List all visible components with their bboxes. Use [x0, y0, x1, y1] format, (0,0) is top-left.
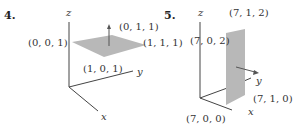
point-label: (0, 1, 1)	[119, 21, 159, 32]
x-label: x	[101, 111, 107, 122]
y-label: y	[136, 66, 143, 77]
point-label: (1, 0, 1)	[83, 63, 123, 74]
y-axis	[200, 87, 230, 98]
figure-5: 5. z y x (7, 1, 2) (7, 0, 2) (7, 1, 0) (…	[164, 7, 293, 124]
z-label: z	[65, 7, 72, 18]
figure-5-number: 5.	[164, 9, 175, 22]
point-label: (7, 0, 2)	[190, 35, 230, 46]
figure-4: 4. z y x (0, 0, 1) (0, 1, 1) (1, 1, 1) (…	[4, 7, 183, 122]
y-label: y	[255, 75, 262, 86]
point-label: (0, 0, 1)	[28, 37, 68, 48]
point-label: (7, 1, 0)	[253, 93, 293, 104]
z-label: z	[197, 7, 204, 18]
point-label: (1, 1, 1)	[143, 37, 183, 48]
x-label: x	[248, 106, 254, 117]
figure-canvas: 4. z y x (0, 0, 1) (0, 1, 1) (1, 1, 1) (…	[0, 0, 297, 130]
y-axis-extension	[244, 78, 251, 81]
point-label: (7, 1, 2)	[229, 7, 269, 18]
figure-4-number: 4.	[4, 9, 15, 22]
x-axis	[69, 87, 98, 111]
point-label: (7, 0, 0)	[186, 113, 226, 124]
arrowhead-icon	[107, 24, 111, 29]
